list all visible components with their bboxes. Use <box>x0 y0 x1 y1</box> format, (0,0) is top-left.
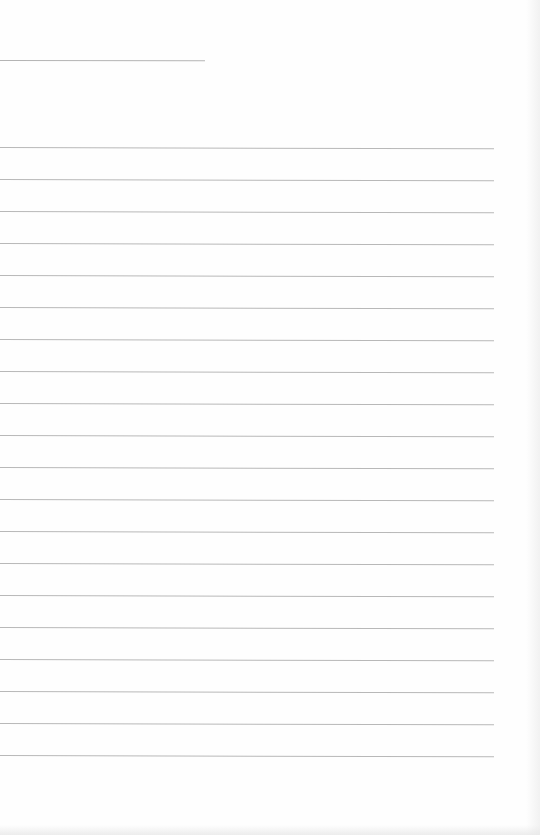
ruled-line <box>0 755 494 757</box>
ruled-line <box>0 371 494 373</box>
header-rule-line <box>0 60 205 61</box>
ruled-line <box>0 147 494 149</box>
ruled-line <box>0 723 494 725</box>
ruled-line <box>0 179 494 181</box>
page-bottom-shadow <box>0 825 540 835</box>
ruled-line <box>0 339 494 341</box>
ruled-line <box>0 691 494 693</box>
lined-paper-page <box>0 0 540 835</box>
ruled-line <box>0 275 494 277</box>
ruled-line <box>0 467 494 469</box>
ruled-line <box>0 531 494 533</box>
ruled-line <box>0 435 494 437</box>
ruled-line <box>0 307 494 309</box>
page-edge-shadow <box>526 0 540 835</box>
ruled-line <box>0 659 494 661</box>
ruled-line <box>0 563 494 565</box>
ruled-line <box>0 211 494 213</box>
ruled-line <box>0 499 494 501</box>
ruled-line <box>0 403 494 405</box>
ruled-line <box>0 595 494 597</box>
ruled-line <box>0 627 494 629</box>
ruled-line <box>0 243 494 245</box>
